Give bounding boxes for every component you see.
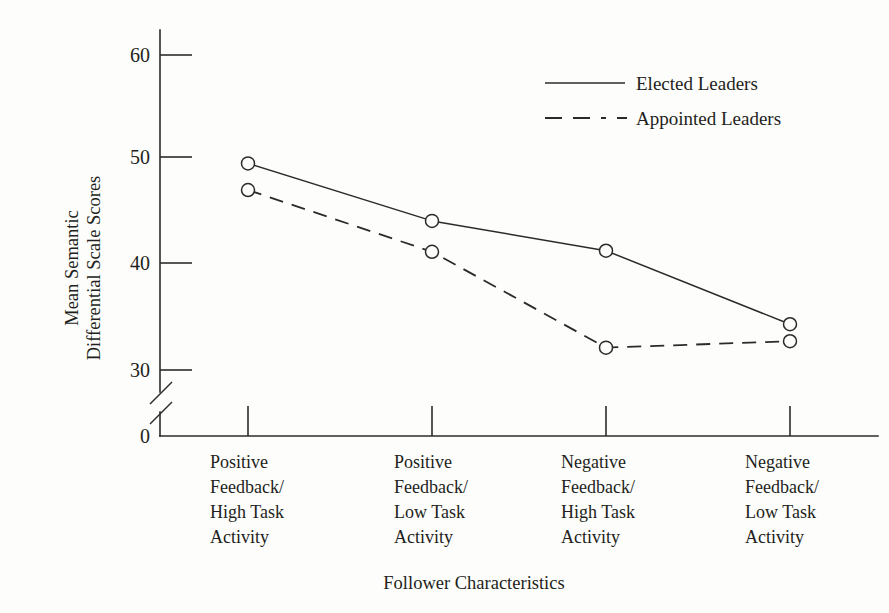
category-3-line-4: Activity: [561, 527, 620, 547]
chart-figure: 60 50 40 30 0 Mean Semantic Differential…: [0, 0, 889, 613]
data-point-marker: [600, 244, 613, 257]
data-point-marker: [426, 245, 439, 258]
data-point-marker: [784, 335, 797, 348]
category-2-line-2: Feedback/: [394, 477, 468, 497]
category-4-line-2: Feedback/: [745, 477, 819, 497]
category-4-line-1: Negative: [745, 452, 810, 472]
legend-label-elected: Elected Leaders: [636, 73, 758, 94]
y-tick-label-0: 0: [140, 425, 150, 447]
category-1-line-2: Feedback/: [210, 477, 284, 497]
category-2-line-4: Activity: [394, 527, 453, 547]
data-point-marker: [242, 184, 255, 197]
category-2-line-1: Positive: [394, 452, 452, 472]
category-2-line-3: Low Task: [394, 502, 465, 522]
category-3-line-1: Negative: [561, 452, 626, 472]
category-4-line-3: Low Task: [745, 502, 816, 522]
legend-label-appointed: Appointed Leaders: [636, 108, 781, 129]
data-point-marker: [600, 341, 613, 354]
category-1-line-4: Activity: [210, 527, 269, 547]
data-point-marker: [426, 214, 439, 227]
line-chart-svg: 60 50 40 30 0 Mean Semantic Differential…: [0, 0, 889, 613]
category-4-line-4: Activity: [745, 527, 804, 547]
y-axis-title-line2: Differential Scale Scores: [84, 176, 104, 361]
data-point-marker: [784, 318, 797, 331]
y-axis-title-line1: Mean Semantic: [62, 210, 82, 326]
category-1-line-1: Positive: [210, 452, 268, 472]
data-point-marker: [242, 157, 255, 170]
y-tick-label-60: 60: [130, 44, 150, 66]
y-tick-label-30: 30: [130, 359, 150, 381]
y-tick-label-40: 40: [130, 252, 150, 274]
category-3-line-3: High Task: [561, 502, 635, 522]
category-1-line-3: High Task: [210, 502, 284, 522]
y-tick-label-50: 50: [130, 146, 150, 168]
x-axis-title: Follower Characteristics: [383, 573, 564, 593]
category-3-line-2: Feedback/: [561, 477, 635, 497]
